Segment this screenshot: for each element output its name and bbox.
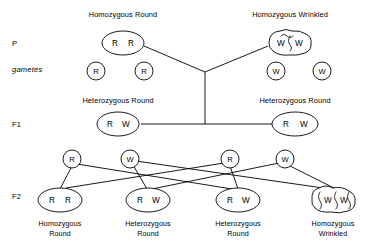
f1-offspring-left-allele-right: W (122, 120, 130, 129)
p-parent-wrinkled-allele-right: W (295, 39, 303, 48)
generation-label-f1: F1 (12, 120, 21, 129)
f2-fertilization-connectors (60, 161, 336, 189)
f1-gamete-r-2: R (221, 150, 239, 168)
f1-offspring-right-allele-left: R (283, 120, 289, 129)
f2-offspring-heterozygous-round-1: R W (126, 188, 170, 212)
f1-gamete-w-2: W (276, 150, 294, 168)
p-gamete-wrinkled-1: W (267, 62, 285, 80)
p-gamete-wrinkled-2: W (313, 62, 331, 80)
f1-offspring-left-outline (97, 112, 139, 136)
f2-offspring-3-allele-left: R (227, 196, 233, 205)
p-left-cross-line (144, 46, 205, 72)
f2-offspring-2-allele-right: W (152, 196, 160, 205)
p-gamete-round-2-allele: R (141, 67, 147, 76)
f2-line-w2-to-rw1 (152, 163, 279, 189)
f1-gamete-w-1-allele: W (126, 155, 134, 164)
f1-offspring-right-allele-right: W (300, 120, 308, 129)
f2-offspring-heterozygous-round-2: R W (216, 188, 260, 212)
f2-offspring-3-allele-right: W (242, 196, 250, 205)
f2-line-r1-to-rr (60, 166, 72, 189)
f1-gamete-r-1: R (63, 150, 81, 168)
f2-caption-4-line2: Wrinkled (319, 229, 348, 238)
f1-offspring-left-allele-left: R (107, 120, 113, 129)
p-gamete-round-1: R (87, 62, 105, 80)
p-parent-round-outline (102, 31, 144, 55)
f1-gamete-r-2-allele: R (227, 155, 233, 164)
f2-caption-1-line1: Homozygous (39, 219, 82, 228)
f2-offspring-4-outline (312, 186, 355, 213)
p-parent-caption-wrinkled: Homozygous Wrinkled (252, 10, 328, 19)
f2-caption-2-line2: Round (137, 229, 159, 238)
p-gamete-round-2: R (135, 62, 153, 80)
f2-offspring-1-allele-left: R (49, 196, 55, 205)
p-parent-wrinkled-allele-left: W (277, 39, 285, 48)
f2-offspring-3-outline (216, 188, 260, 212)
f2-offspring-4-allele-left: W (324, 196, 332, 205)
f2-offspring-1-outline (38, 188, 82, 212)
f1-caption-left: Heterozygous Round (82, 96, 153, 105)
p-gamete-wrinkled-2-allele: W (318, 67, 326, 76)
f2-offspring-4-allele-right: W (340, 196, 348, 205)
f2-offspring-2-allele-left: R (137, 196, 143, 205)
f2-caption-3-line1: Heterozygous (215, 219, 261, 228)
p-to-f1-connectors (144, 46, 268, 124)
f2-offspring-2-outline (126, 188, 170, 212)
f1-offspring-right: R W (272, 112, 318, 136)
cross-diagram-canvas: P gametes F1 F2 Homozygous Round R R Hom… (0, 0, 390, 248)
f1-gamete-r-1-allele: R (69, 155, 75, 164)
f1-offspring-right-outline (272, 112, 318, 136)
f2-caption-4-line1: Homozygous (312, 219, 355, 228)
p-parent-caption-round: Homozygous Round (89, 10, 158, 19)
f1-offspring-left: R W (97, 112, 139, 136)
generation-label-f2: F2 (12, 192, 21, 201)
f2-caption-2-line1: Heterozygous (125, 219, 171, 228)
f2-caption-3-line2: Round (227, 229, 249, 238)
f2-offspring-homozygous-wrinkled: W W (312, 186, 355, 213)
f2-line-r2-to-rw2 (230, 166, 238, 189)
generation-label-gametes: gametes (12, 65, 43, 74)
p-gamete-round-1-allele: R (93, 67, 99, 76)
p-parent-round-allele-left: R (112, 39, 118, 48)
p-gamete-wrinkled-1-allele: W (272, 67, 280, 76)
f1-gamete-w-1: W (121, 150, 139, 168)
f1-gamete-w-2-allele: W (281, 155, 289, 164)
genetics-cross-diagram: P gametes F1 F2 Homozygous Round R R Hom… (0, 0, 390, 248)
f2-line-r1-to-rw2 (77, 164, 232, 189)
f2-offspring-homozygous-round: R R (38, 188, 82, 212)
p-parent-wrinkled: W W (269, 30, 311, 56)
f2-caption-1-line2: Round (49, 229, 71, 238)
p-parent-round: R R (102, 31, 144, 55)
p-parent-round-allele-right: R (128, 39, 134, 48)
p-right-cross-line (205, 46, 268, 72)
f1-caption-right: Heterozygous Round (259, 96, 330, 105)
generation-label-p: P (12, 39, 17, 48)
f2-line-w2-to-ww (288, 165, 336, 189)
f2-offspring-1-allele-right: R (65, 196, 71, 205)
